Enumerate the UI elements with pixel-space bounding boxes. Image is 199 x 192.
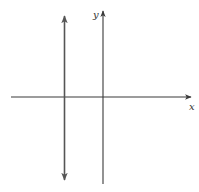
coordinate-diagram: y x bbox=[0, 0, 199, 192]
x-axis-label: x bbox=[189, 101, 195, 112]
y-axis-label: y bbox=[92, 9, 99, 20]
